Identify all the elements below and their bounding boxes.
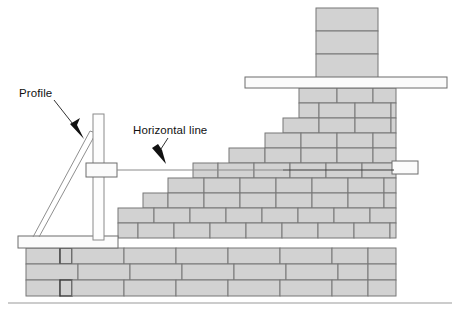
profile-leader (54, 100, 84, 139)
horizontal-line-leader (152, 138, 168, 164)
label-horizontal-line: Horizontal line (133, 124, 207, 136)
diagram-canvas: Profile Horizontal line (0, 0, 460, 317)
horizontal-line-arrowhead (152, 144, 166, 164)
profile-assembly (33, 114, 117, 240)
line-block-right (392, 161, 418, 174)
top-plank (245, 77, 447, 88)
label-profile: Profile (19, 87, 52, 99)
chimney-column (316, 8, 378, 78)
wall-main-body (118, 88, 396, 238)
wall-base-courses (26, 248, 396, 296)
line-block-left (86, 163, 117, 177)
diagram-svg (0, 0, 460, 317)
profile-arrowhead (70, 118, 84, 139)
profile-brace (33, 131, 96, 237)
